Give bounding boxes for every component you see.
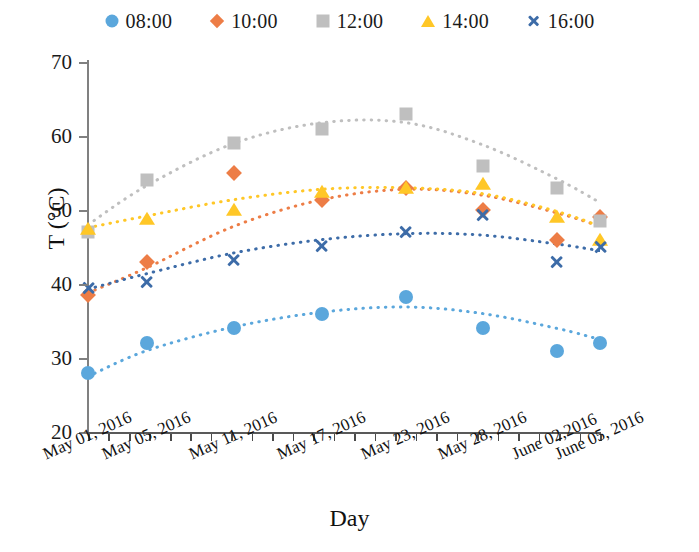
legend-label: 16:00 [548, 11, 595, 31]
y-axis-tick [79, 210, 88, 212]
y-axis-tick [79, 62, 88, 64]
trendline-10-00 [88, 189, 600, 293]
legend-marker-x-icon [527, 14, 541, 28]
trendline-14-00 [88, 187, 600, 227]
legend-label: 12:00 [337, 11, 384, 31]
legend-label: 14:00 [442, 11, 489, 31]
trendline-08-00 [88, 307, 600, 377]
chart-container: 08:0010:0012:0014:0016:00 203040506070 M… [0, 0, 699, 552]
trendline-12-00 [88, 120, 600, 225]
x-axis-tick [354, 434, 356, 441]
legend-label: 08:00 [126, 11, 173, 31]
legend-item-14-00[interactable]: 14:00 [421, 11, 489, 31]
x-axis-title: Day [0, 505, 699, 532]
legend-marker-diamond-icon [210, 14, 224, 28]
y-axis-tick-label: 70 [12, 50, 72, 75]
legend-marker-square-icon [316, 14, 330, 28]
x-axis-tick [436, 434, 438, 441]
legend-label: 10:00 [231, 11, 278, 31]
legend-marker-triangle-icon [421, 14, 435, 28]
trendline-layer [88, 62, 600, 432]
legend-item-08-00[interactable]: 08:00 [105, 11, 173, 31]
x-axis-tick [272, 434, 274, 441]
legend-item-12-00[interactable]: 12:00 [316, 11, 384, 31]
y-axis-tick [79, 136, 88, 138]
plot-area [88, 62, 600, 432]
x-axis-tick [190, 434, 192, 441]
legend-item-16-00[interactable]: 16:00 [527, 11, 595, 31]
y-axis-tick-label: 60 [12, 124, 72, 149]
y-axis-tick [79, 358, 88, 360]
y-axis-tick [79, 284, 88, 286]
chart-legend: 08:0010:0012:0014:0016:00 [0, 6, 699, 36]
y-axis-tick-label: 30 [12, 346, 72, 371]
y-axis-title: T (°C) [43, 159, 70, 279]
legend-marker-circle-icon [105, 14, 119, 28]
trendline-16-00 [88, 233, 600, 289]
legend-item-10-00[interactable]: 10:00 [210, 11, 278, 31]
